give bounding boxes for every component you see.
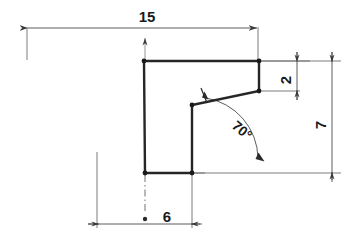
centerline-dot (143, 217, 147, 221)
centerline-group (143, 175, 147, 221)
vertex-dot-slant-left (190, 103, 195, 108)
vertex-dot-group (142, 59, 262, 176)
vertex-dot-step-right (257, 89, 262, 94)
dimension-label-15: 15 (139, 8, 156, 25)
vertex-dot-top-left (142, 59, 147, 64)
dimension-line-group (27, 27, 341, 228)
vertex-dot-bottom-left (143, 171, 148, 176)
angle-arrow-end (256, 153, 265, 162)
technical-drawing-svg: 15 2 7 6 70° (0, 0, 354, 244)
dimension-label-70deg: 70° (229, 117, 256, 143)
vertex-dot-top-right (257, 59, 262, 64)
dimension-label-2: 2 (277, 76, 294, 84)
vertex-dot-inner-bottom (190, 171, 195, 176)
dimension-label-7: 7 (312, 121, 329, 129)
drawing-canvas: 15 2 7 6 70° (0, 0, 354, 244)
dimension-label-6: 6 (163, 208, 171, 225)
